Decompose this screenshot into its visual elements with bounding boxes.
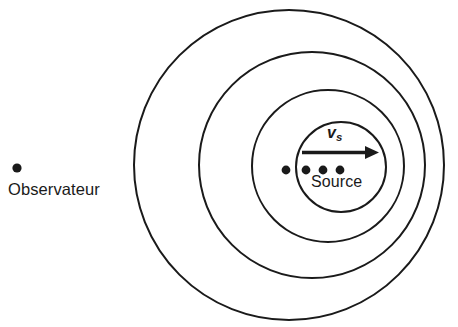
source-label: Source: [311, 174, 362, 190]
wavefront-3: [199, 52, 425, 278]
diagram-canvas: [0, 0, 458, 327]
observer-label: Observateur: [8, 181, 100, 198]
observer-dot: [12, 163, 21, 172]
doppler-diagram: Observateur Source vs: [0, 0, 458, 327]
wavefront-4-oldest: [134, 10, 444, 320]
velocity-subscript: s: [336, 131, 342, 143]
source-velocity-arrow-icon: [302, 146, 379, 159]
source-pos-4-oldest: [282, 166, 291, 175]
wavefront-2: [252, 90, 404, 242]
velocity-label: vs: [327, 125, 342, 143]
velocity-symbol: v: [327, 124, 336, 141]
source-pos-3: [302, 166, 311, 175]
